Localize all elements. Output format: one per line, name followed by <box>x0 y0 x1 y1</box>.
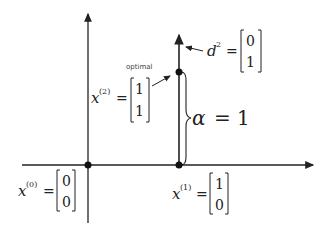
alpha-label: α = 1 <box>192 106 250 130</box>
alpha-symbol: α <box>192 106 206 130</box>
x0-equals: = <box>43 183 55 199</box>
x2-sup: (2) <box>99 87 110 96</box>
x1-v0: 1 <box>215 176 224 192</box>
x1-v1: 0 <box>215 197 224 213</box>
d2-equals: = <box>226 43 238 59</box>
x0-v0: 0 <box>62 173 71 189</box>
x2-v0: 1 <box>135 81 144 97</box>
d2-v1: 1 <box>246 54 255 70</box>
x0-sup: (0) <box>26 180 37 189</box>
point-x2 <box>176 69 183 76</box>
alpha-brace <box>181 72 191 165</box>
d2-sup: 2 <box>216 40 221 49</box>
x1-sup: (1) <box>180 183 191 192</box>
x0-label: x (0) = 0 0 <box>18 170 75 211</box>
x2-equals: = <box>116 90 128 106</box>
d2-label: d 2 = 0 1 <box>207 30 261 72</box>
optimal-label: optimal <box>126 63 153 71</box>
d2-pointer-arrow <box>186 47 203 51</box>
point-x1 <box>176 162 183 169</box>
alpha-value: = 1 <box>214 106 250 130</box>
point-x0 <box>85 162 92 169</box>
diagram-canvas: optimal d 2 = 0 1 x (2) = 1 1 α = 1 x (0… <box>0 0 329 237</box>
x1-label: x (1) = 1 0 <box>172 173 228 214</box>
d2-v0: 0 <box>246 33 255 49</box>
x2-label: x (2) = 1 1 <box>91 78 149 122</box>
x1-equals: = <box>196 186 208 202</box>
x0-v1: 0 <box>62 194 71 210</box>
x2-v1: 1 <box>135 103 144 119</box>
x2-pointer-arrow <box>152 76 170 86</box>
